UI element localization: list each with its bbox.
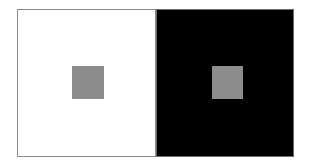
- white-panel: [17, 9, 156, 157]
- gray-square-on-black: [212, 66, 243, 99]
- black-panel: [156, 9, 294, 157]
- gray-square-on-white: [72, 66, 104, 99]
- contrast-illusion-figure: [17, 9, 294, 157]
